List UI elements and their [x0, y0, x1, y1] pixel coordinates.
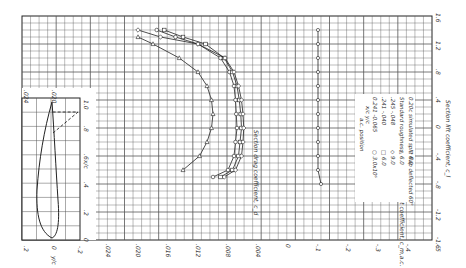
svg-text:1.2: 1.2: [435, 41, 442, 51]
svg-text:◇ 9.0: ◇ 9.0: [390, 150, 396, 165]
svg-text:Section lift coefficient, c_l: Section lift coefficient, c_l: [444, 100, 452, 177]
svg-text:□ 6.0: □ 6.0: [381, 150, 387, 166]
svg-text:a.c. position: a.c. position: [358, 118, 365, 152]
svg-text:0.241 -0.065: 0.241 -0.065: [372, 97, 378, 133]
svg-text:○ 3.0x10⁶: ○ 3.0x10⁶: [372, 150, 378, 179]
svg-text:0: 0: [285, 244, 292, 248]
svg-text:.2: .2: [83, 210, 90, 216]
svg-text:.016: .016: [165, 244, 172, 258]
svg-text:0.20c simulated split flap def: 0.20c simulated split flap deflected 60°: [407, 97, 414, 206]
svg-text:.245 -.048: .245 -.048: [390, 97, 396, 126]
svg-text:0: 0: [51, 246, 58, 250]
svg-text:.241 -.040: .241 -.040: [381, 97, 387, 126]
svg-text:-.1: -.1: [315, 244, 322, 252]
svg-text:.008: .008: [225, 244, 232, 258]
svg-text:.020: .020: [135, 244, 142, 258]
svg-text:.8: .8: [83, 126, 90, 132]
svg-text:.8: .8: [435, 69, 442, 75]
drag-curves: [136, 28, 246, 179]
svg-text:1.6: 1.6: [435, 13, 442, 23]
svg-text:Standard roughness: Standard roughness: [398, 97, 405, 153]
svg-text:.004: .004: [255, 244, 262, 258]
svg-text:.4: .4: [435, 97, 442, 103]
svg-text:x/c: x/c: [83, 159, 90, 170]
svg-text:0: 0: [435, 125, 442, 129]
svg-text:.4: .4: [83, 182, 90, 188]
svg-text:.020: .020: [51, 90, 58, 104]
svg-text:1.0: 1.0: [83, 100, 90, 110]
svg-text:-.4: -.4: [435, 153, 442, 161]
rotated-airfoil-chart: 0.2.4.6.81.0x/c.20-.2y/c.024.020 .024.02…: [0, 0, 466, 268]
svg-text:.012: .012: [195, 244, 202, 258]
svg-text:.024: .024: [23, 90, 30, 104]
svg-text:.2: .2: [23, 246, 30, 252]
svg-text:0: 0: [83, 238, 90, 242]
svg-text:-.2: -.2: [77, 246, 84, 254]
svg-text:Section drag coefficient, c_d: Section drag coefficient, c_d: [252, 130, 260, 215]
svg-text:.024: .024: [105, 244, 112, 258]
svg-text:y/c: y/c: [50, 255, 58, 266]
svg-text:-1.2: -1.2: [435, 209, 442, 221]
legend: a.c. positionx/c y/c○ 3.0x10⁶0.241 -0.06…: [355, 94, 415, 206]
svg-text:-.2: -.2: [345, 244, 352, 252]
svg-text:-.3: -.3: [375, 244, 382, 252]
svg-text:-.8: -.8: [435, 181, 442, 189]
svg-text:-1.6: -1.6: [435, 237, 442, 249]
airfoil-inset: 0.2.4.6.81.0x/c.20-.2y/c.024.020: [22, 88, 96, 266]
svg-text:x/c y/c: x/c y/c: [364, 105, 371, 124]
